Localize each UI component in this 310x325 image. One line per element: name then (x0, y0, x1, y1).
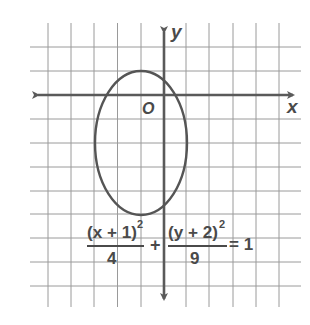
equation-denominator-2: 9 (190, 249, 199, 268)
coordinate-plane: y x O (x + 1) 2 4 + (y + 2) 2 9 = 1 (0, 0, 310, 325)
equation-numerator-1: (x + 1) (87, 223, 137, 242)
equation-numerator-2: (y + 2) (168, 223, 218, 242)
ellipse-equation: (x + 1) 2 4 + (y + 2) 2 9 = 1 (87, 218, 253, 268)
equation-denominator-1: 4 (107, 249, 117, 268)
equation-exponent-2: 2 (219, 218, 225, 230)
origin-label: O (142, 100, 155, 117)
x-axis-label: x (286, 96, 299, 117)
equation-exponent-1: 2 (137, 218, 143, 230)
y-axis-label: y (170, 21, 183, 42)
equation-equals-one: = 1 (229, 235, 253, 254)
equation-plus: + (150, 235, 161, 255)
ellipse-graph-figure: y x O (x + 1) 2 4 + (y + 2) 2 9 = 1 (0, 0, 310, 325)
